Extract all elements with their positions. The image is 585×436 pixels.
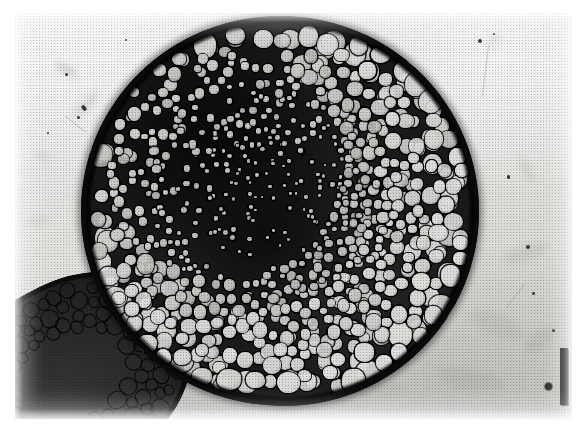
photographic-plate <box>15 13 572 419</box>
micrograph-figure <box>0 0 585 436</box>
scale-bar <box>560 348 568 405</box>
epidermal-rim-inner <box>86 21 474 401</box>
reference-dot <box>545 383 552 390</box>
main-cross-section <box>81 16 479 406</box>
figure-caption <box>0 0 1 1</box>
